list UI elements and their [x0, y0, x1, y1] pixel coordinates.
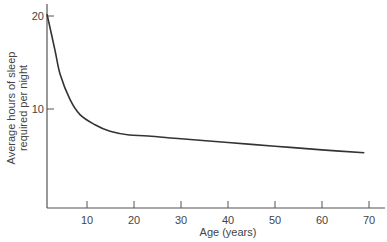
sleep-curve [47, 14, 364, 153]
axes [47, 4, 385, 208]
x-tick-label: 30 [175, 214, 187, 226]
x-tick-label: 70 [363, 214, 375, 226]
x-ticks: 10203040506070 [81, 201, 375, 226]
x-tick-label: 20 [128, 214, 140, 226]
y-axis-label: Average hours of sleep required per nigh… [5, 52, 29, 165]
x-tick-label: 40 [222, 214, 234, 226]
y-tick-label: 20 [32, 10, 44, 22]
y-ticks: 1020 [32, 10, 54, 115]
y-axis-label-line-1: Average hours of sleep [5, 52, 17, 165]
y-tick-label: 10 [32, 103, 44, 115]
x-tick-label: 10 [81, 214, 93, 226]
chart: 10203040506070 1020 Age (years) Average … [0, 0, 387, 242]
x-axis-label: Age (years) [200, 226, 257, 238]
y-axis-label-line-2: required per night [17, 65, 29, 151]
x-tick-label: 50 [269, 214, 281, 226]
x-tick-label: 60 [316, 214, 328, 226]
